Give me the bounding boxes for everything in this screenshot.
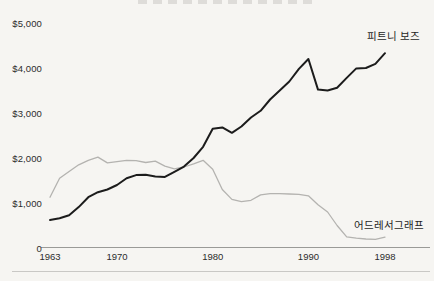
x-tick-label: 1980	[195, 251, 231, 262]
y-tick-label: $1,000	[4, 198, 42, 209]
y-tick-label: $5,000	[4, 18, 42, 29]
y-tick-label: $4,000	[4, 63, 42, 74]
pitney-bowes-series-label: 피트니 보즈	[367, 30, 420, 43]
y-tick-label: $3,000	[4, 108, 42, 119]
x-tick-label: 1990	[290, 251, 326, 262]
y-tick-label: $2,000	[4, 153, 42, 164]
x-tick-label: 1998	[367, 251, 403, 262]
addressograph-line	[50, 157, 385, 239]
pitney-bowes-line	[50, 53, 385, 220]
stock-comparison-chart: $5,000$4,000$3,000$2,000$1,0000 19631970…	[0, 0, 434, 281]
bottom-divider-line	[12, 271, 430, 272]
x-tick-label: 1970	[99, 251, 135, 262]
x-tick-label: 1963	[32, 251, 68, 262]
addressograph-series-label: 어드레서그래프	[354, 219, 424, 232]
